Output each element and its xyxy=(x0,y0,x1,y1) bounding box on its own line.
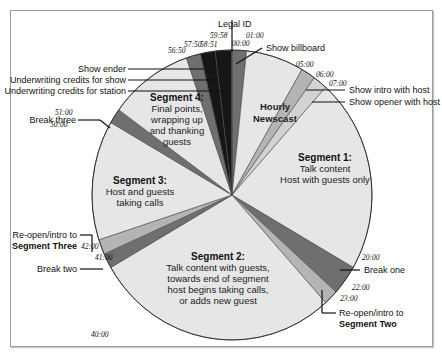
segment4-line3: and thanking xyxy=(150,125,204,136)
newscast-label-2: Newscast xyxy=(253,113,298,124)
tick-58-51: 58:51 xyxy=(200,40,218,49)
tick-00-00: 00:00 xyxy=(232,39,250,48)
callout-reopen-three-1: Re-open/intro to xyxy=(12,230,77,240)
callout-show-ender: Show ender xyxy=(78,64,126,74)
hour-clock-diagram: Hourly Newscast Segment 1: Talk content … xyxy=(0,0,442,357)
callout-show-billboard: Show billboard xyxy=(266,43,325,53)
segment1-line1: Talk content xyxy=(300,163,351,174)
segment3-title: Segment 3: xyxy=(113,175,167,186)
segment4-line4: guests xyxy=(163,136,191,147)
tick-05-00: 05:00 xyxy=(296,60,314,69)
segment1-line2: Host with guests only xyxy=(280,174,370,185)
tick-01-00: 01:00 xyxy=(246,31,264,40)
tick-41-00: 41:00 xyxy=(95,253,113,262)
segment2-title: Segment 2: xyxy=(191,251,245,262)
segment2-line2: towards end of segment xyxy=(167,273,269,284)
callout-break-three: Break three xyxy=(29,115,76,125)
callout-reopen-two-1: Re-open/intro to xyxy=(339,308,404,318)
segment4-line1: Final points, xyxy=(151,103,202,114)
tick-42-00: 42:00 xyxy=(81,242,99,251)
segment3-line1: Host and guests xyxy=(106,186,175,197)
tick-23-00: 23:00 xyxy=(340,294,358,303)
callout-show-intro: Show intro with host xyxy=(349,85,430,95)
callout-break-two: Break two xyxy=(37,264,77,274)
callout-underwriting-show: Underwriting credits for show xyxy=(10,75,127,85)
tick-20-00: 20:00 xyxy=(362,253,380,262)
callout-legal-id: Legal ID xyxy=(218,19,252,29)
segment2-line3: host begins taking calls, xyxy=(168,284,269,295)
callout-reopen-two-2: Segment Two xyxy=(339,319,397,329)
callout-reopen-three-2: Segment Three xyxy=(12,241,77,251)
callout-show-opener: Show opener with host xyxy=(349,97,441,107)
segment2-line1: Talk content with guests, xyxy=(166,262,270,273)
segment1-title: Segment 1: xyxy=(298,152,352,163)
callout-break-one: Break one xyxy=(364,265,405,275)
newscast-label-1: Hourly xyxy=(260,101,291,112)
tick-06-00: 06:00 xyxy=(316,70,334,79)
leader-line xyxy=(100,120,110,128)
segment4-title: Segment 4: xyxy=(150,92,204,103)
segment3-line2: taking calls xyxy=(117,197,164,208)
tick-22-00: 22:00 xyxy=(352,283,370,292)
tick-40-00: 40:00 xyxy=(91,330,109,339)
segment2-line4: or adds new guest xyxy=(179,295,257,306)
tick-59-58: 59:58 xyxy=(210,31,228,40)
tick-07-00: 07:00 xyxy=(329,79,347,88)
callout-underwriting-station: Underwriting credits for station xyxy=(4,86,126,96)
segment4-line2: wrapping up xyxy=(150,114,203,125)
